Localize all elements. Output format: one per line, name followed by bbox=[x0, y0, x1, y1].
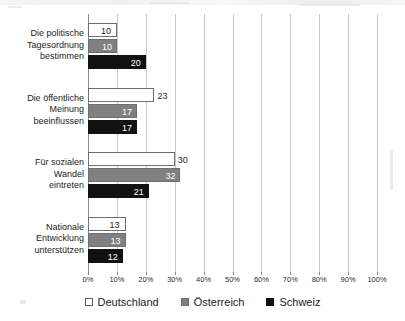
bar-schweiz: 21 bbox=[88, 184, 149, 198]
bar-deutschland: 10 bbox=[88, 23, 117, 37]
bar-value-label: 32 bbox=[165, 169, 175, 183]
bar-deutschland: 23 bbox=[88, 88, 154, 102]
gridline-100 bbox=[377, 14, 378, 272]
bar-value-label: 13 bbox=[110, 218, 120, 232]
x-axis-tick-label: 10% bbox=[109, 275, 124, 284]
scan-artifact bbox=[390, 150, 393, 190]
category-label-line: Wandel bbox=[0, 169, 84, 181]
scan-artifact bbox=[300, 4, 360, 6]
category-label-line: Tagesordnung bbox=[0, 40, 84, 52]
bar-value-label: 30 bbox=[178, 153, 188, 167]
legend-item: Deutschland bbox=[85, 296, 159, 308]
bar-deutschland: 30 bbox=[88, 152, 175, 166]
category-label-line: Die öffentliche bbox=[0, 93, 84, 105]
x-axis-tick-label: 30% bbox=[167, 275, 182, 284]
category-label-line: Die politische bbox=[0, 28, 84, 40]
bar-value-label: 13 bbox=[111, 234, 121, 248]
legend-swatch-de bbox=[85, 298, 93, 306]
chart-legend: DeutschlandÖsterreichSchweiz bbox=[0, 296, 405, 308]
legend-label: Schweiz bbox=[279, 296, 320, 308]
plot-area: 101020231717303221131312 bbox=[88, 14, 377, 272]
x-axis-tick-label: 70% bbox=[283, 275, 298, 284]
category-label-line: eintreten bbox=[0, 180, 84, 192]
x-axis-tick-label: 60% bbox=[254, 275, 269, 284]
bar-value-label: 17 bbox=[122, 105, 132, 119]
bar-schweiz: 17 bbox=[88, 120, 137, 134]
legend-item: Österreich bbox=[181, 296, 245, 308]
bar-sterreich: 32 bbox=[88, 168, 180, 182]
category-label-line: Entwicklung bbox=[0, 233, 84, 245]
legend-swatch-ch bbox=[266, 298, 274, 306]
x-axis: 0%10%20%30%40%50%60%70%80%90%100% bbox=[88, 272, 377, 282]
legend-swatch-at bbox=[181, 298, 189, 306]
category-label-line: bestimmen bbox=[0, 51, 84, 63]
x-axis-tick-label: 0% bbox=[83, 275, 94, 284]
bar-schweiz: 12 bbox=[88, 249, 123, 263]
category-label-line: unterstützen bbox=[0, 245, 84, 257]
bar-group: 131312 bbox=[88, 217, 377, 263]
x-axis-tick-label: 90% bbox=[341, 275, 356, 284]
category-label: NationaleEntwicklungunterstützen bbox=[0, 222, 84, 257]
category-label: Für sozialenWandeleintreten bbox=[0, 157, 84, 192]
x-axis-tick-label: 40% bbox=[196, 275, 211, 284]
scan-artifact bbox=[150, 2, 190, 4]
bar-group: 303221 bbox=[88, 152, 377, 198]
scan-artifact bbox=[20, 300, 26, 304]
x-axis-tick-label: 80% bbox=[312, 275, 327, 284]
legend-label: Österreich bbox=[194, 296, 245, 308]
bar-value-label: 21 bbox=[134, 185, 144, 199]
bar-value-label: 23 bbox=[157, 89, 167, 103]
category-label: Die öffentlicheMeinungbeeinflussen bbox=[0, 93, 84, 128]
bar-deutschland: 13 bbox=[88, 217, 126, 231]
scan-artifact bbox=[8, 6, 22, 8]
bar-sterreich: 13 bbox=[88, 233, 126, 247]
category-label-line: Meinung bbox=[0, 104, 84, 116]
category-label-line: Nationale bbox=[0, 222, 84, 234]
bar-chart: 101020231717303221131312 Die politischeT… bbox=[0, 0, 405, 321]
bar-value-label: 20 bbox=[131, 56, 141, 70]
bar-value-label: 10 bbox=[101, 24, 111, 38]
bar-sterreich: 10 bbox=[88, 39, 117, 53]
bar-group: 231717 bbox=[88, 88, 377, 134]
bar-value-label: 17 bbox=[122, 121, 132, 135]
x-axis-tick-label: 100% bbox=[367, 275, 386, 284]
x-axis-tick-label: 20% bbox=[138, 275, 153, 284]
bar-value-label: 12 bbox=[108, 250, 118, 264]
legend-label: Deutschland bbox=[98, 296, 159, 308]
bar-value-label: 10 bbox=[102, 40, 112, 54]
legend-item: Schweiz bbox=[266, 296, 320, 308]
bar-group: 101020 bbox=[88, 23, 377, 69]
bar-schweiz: 20 bbox=[88, 55, 146, 69]
category-label-line: Für sozialen bbox=[0, 157, 84, 169]
bar-sterreich: 17 bbox=[88, 104, 137, 118]
category-label-line: beeinflussen bbox=[0, 116, 84, 128]
category-label: Die politischeTagesordnungbestimmen bbox=[0, 28, 84, 63]
x-axis-tick-label: 50% bbox=[225, 275, 240, 284]
